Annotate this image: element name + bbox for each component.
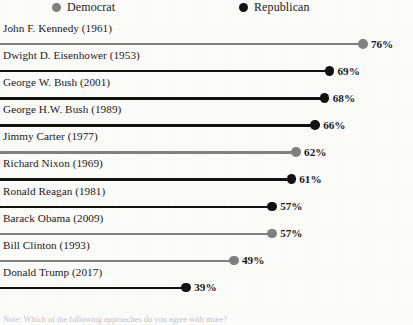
chart-row: George H.W. Bush (1989)66% <box>0 103 413 130</box>
circle-icon <box>52 3 61 12</box>
chart-row-value-label: 39% <box>194 281 216 294</box>
chart-row: Richard Nixon (1969)61% <box>0 157 413 184</box>
chart-plot-area: John F. Kennedy (1961)76%Dwight D. Eisen… <box>0 22 413 293</box>
chart-row-endpoint-dot <box>229 256 239 266</box>
chart-row-bar <box>0 43 363 45</box>
chart-legend: Democrat Republican <box>0 0 413 22</box>
chart-row-label: Barack Obama (2009) <box>3 212 103 225</box>
chart-row-bar <box>0 287 186 289</box>
chart-row: Donald Trump (2017)39% <box>0 266 413 293</box>
chart-row-label: Jimmy Carter (1977) <box>3 130 98 143</box>
chart-row-endpoint-dot <box>287 174 297 184</box>
chart-row: Bill Clinton (1993)49% <box>0 239 413 266</box>
chart-row-bar <box>0 70 329 72</box>
chart-row-endpoint-dot <box>267 229 277 239</box>
chart-row: Ronald Reagan (1981)57% <box>0 185 413 212</box>
chart-row-label: Richard Nixon (1969) <box>3 157 103 170</box>
chart-row-label: Donald Trump (2017) <box>3 266 102 279</box>
chart-row-endpoint-dot <box>325 66 335 76</box>
legend-item-democrat: Democrat <box>52 1 115 14</box>
chart-row-label: George H.W. Bush (1989) <box>3 103 121 116</box>
chart-row-bar <box>0 260 234 262</box>
chart-row-label: Bill Clinton (1993) <box>3 239 90 252</box>
chart-row-bar <box>0 97 325 99</box>
chart-row-label: John F. Kennedy (1961) <box>3 22 112 35</box>
circle-icon <box>239 3 248 12</box>
chart-row: Barack Obama (2009)57% <box>0 212 413 239</box>
chart-row-endpoint-dot <box>310 120 320 130</box>
legend-item-republican: Republican <box>239 1 310 14</box>
chart-row: Jimmy Carter (1977)62% <box>0 130 413 157</box>
chart-row-bar <box>0 178 291 180</box>
chart-row: George W. Bush (2001)68% <box>0 76 413 103</box>
chart-row-endpoint-dot <box>291 147 301 157</box>
chart-row-label: Dwight D. Eisenhower (1953) <box>3 49 140 62</box>
legend-label-democrat: Democrat <box>67 1 115 14</box>
chart-row-bar <box>0 206 272 208</box>
chart-row-bar <box>0 233 272 235</box>
legend-label-republican: Republican <box>254 1 310 14</box>
chart-row-endpoint-dot <box>181 283 191 293</box>
chart-row: John F. Kennedy (1961)76% <box>0 22 413 49</box>
chart-row-endpoint-dot <box>267 202 277 212</box>
chart-row-endpoint-dot <box>320 93 330 103</box>
chart-row-endpoint-dot <box>358 39 368 49</box>
chart-row-bar <box>0 124 315 126</box>
chart-footnote: Note: Which of the following approaches … <box>3 315 408 325</box>
chart-row-label: George W. Bush (2001) <box>3 76 110 89</box>
chart-row-bar <box>0 151 296 153</box>
chart-row: Dwight D. Eisenhower (1953)69% <box>0 49 413 76</box>
chart-row-label: Ronald Reagan (1981) <box>3 185 105 198</box>
